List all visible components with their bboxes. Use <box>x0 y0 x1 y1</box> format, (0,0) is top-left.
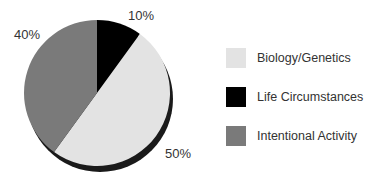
legend-item-intentional-activity: Intentional Activity <box>226 126 363 146</box>
legend-item-life-circumstances: Life Circumstances <box>226 87 363 107</box>
legend-label: Biology/Genetics <box>257 51 351 65</box>
legend-swatch-biology-genetics <box>226 48 246 68</box>
slice-label-biology-genetics: 50% <box>165 146 191 161</box>
legend: Biology/Genetics Life Circumstances Inte… <box>226 48 363 165</box>
legend-swatch-life-circumstances <box>226 87 246 107</box>
slice-label-life-circumstances: 10% <box>128 8 154 23</box>
legend-swatch-intentional-activity <box>226 126 246 146</box>
legend-label: Life Circumstances <box>257 90 363 104</box>
legend-label: Intentional Activity <box>257 129 357 143</box>
legend-item-biology-genetics: Biology/Genetics <box>226 48 363 68</box>
slice-label-intentional-activity: 40% <box>14 27 40 42</box>
